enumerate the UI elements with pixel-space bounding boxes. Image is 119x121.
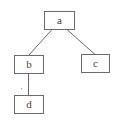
node-a-label: a	[57, 14, 62, 26]
node-a: a	[45, 12, 75, 30]
node-c-label: c	[93, 57, 98, 69]
node-b: b	[15, 56, 44, 74]
edge-a-c	[67, 30, 95, 55]
tree-diagram: a b c d	[0, 0, 119, 121]
edge-a-b	[29, 30, 53, 56]
node-d: d	[15, 96, 44, 114]
node-d-label: d	[26, 98, 32, 110]
node-c: c	[82, 55, 110, 73]
node-b-label: b	[26, 58, 32, 70]
stray-dot	[21, 88, 22, 89]
